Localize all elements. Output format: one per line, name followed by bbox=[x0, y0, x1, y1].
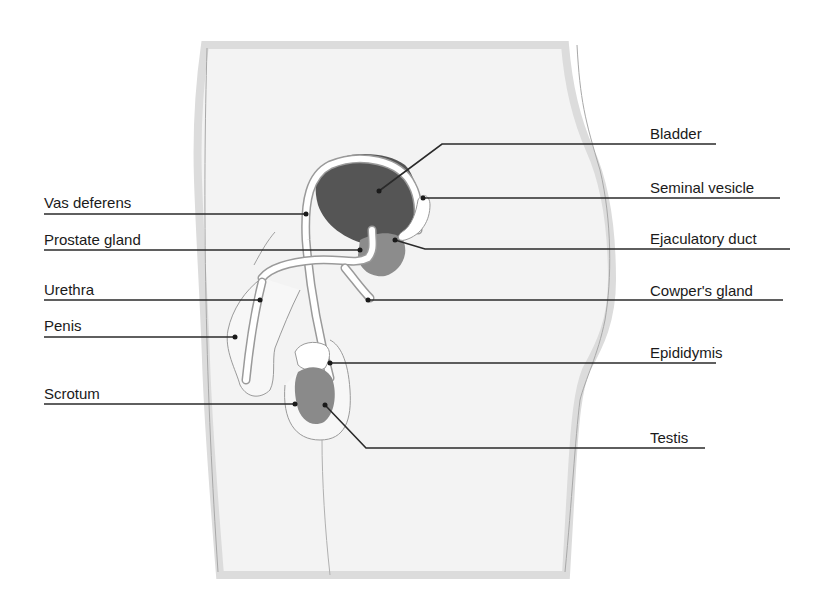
label-cowpers-gland: Cowper's gland bbox=[650, 283, 753, 299]
label-penis: Penis bbox=[44, 318, 82, 334]
label-seminal-vesicle: Seminal vesicle bbox=[650, 180, 754, 196]
label-epididymis: Epididymis bbox=[650, 345, 723, 361]
label-urethra: Urethra bbox=[44, 282, 94, 298]
epididymis-shape bbox=[295, 342, 330, 370]
label-vas-deferens: Vas deferens bbox=[44, 195, 131, 211]
label-testis: Testis bbox=[650, 430, 688, 446]
label-bladder: Bladder bbox=[650, 126, 702, 142]
diagram-canvas: Vas deferens Prostate gland Urethra Peni… bbox=[0, 0, 820, 612]
label-prostate-gland: Prostate gland bbox=[44, 232, 141, 248]
anatomy-illustration bbox=[0, 0, 820, 612]
label-ejaculatory-duct: Ejaculatory duct bbox=[650, 231, 757, 247]
label-scrotum: Scrotum bbox=[44, 386, 100, 402]
